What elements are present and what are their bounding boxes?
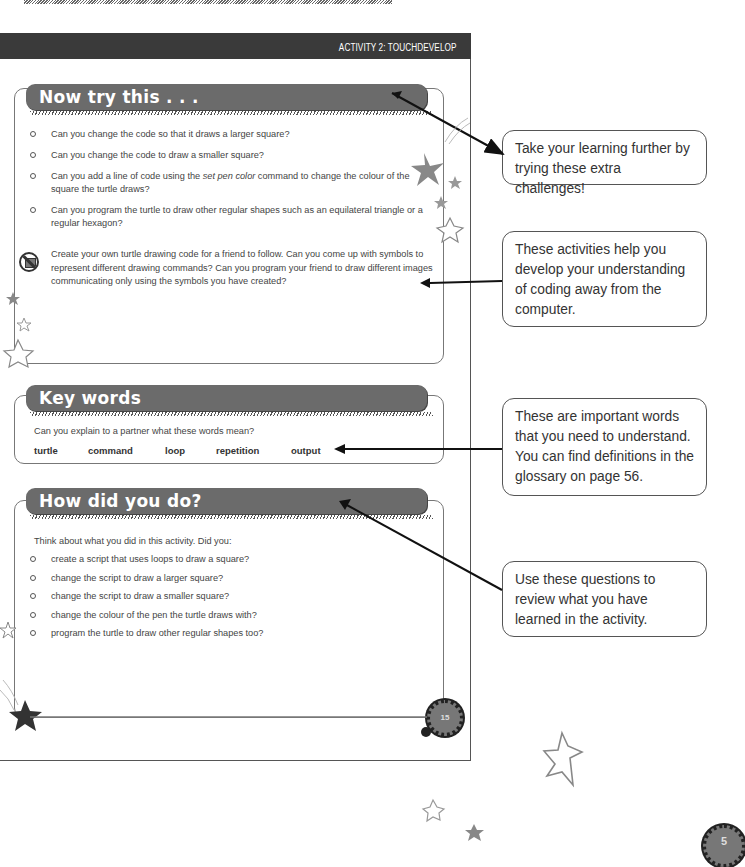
star-icon xyxy=(411,118,470,242)
outer-page-number-badge: 5 xyxy=(703,825,745,867)
star-icon xyxy=(0,292,42,731)
star-icon xyxy=(423,733,582,841)
